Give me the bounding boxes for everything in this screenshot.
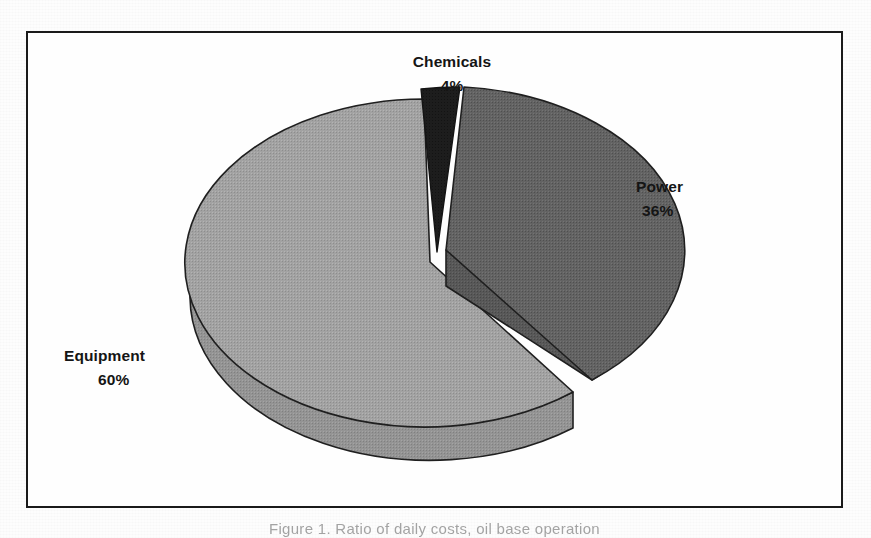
slice-label-chemicals: Chemicals 4% [352, 50, 552, 98]
slice-label-chemicals-name: Chemicals [352, 50, 552, 74]
slice-label-power-value: 36% [636, 199, 816, 223]
slice-label-equipment-value: 60% [22, 368, 222, 392]
slice-label-chemicals-value: 4% [352, 74, 552, 98]
slice-label-equipment-name: Equipment [22, 344, 222, 368]
slice-label-equipment: Equipment 60% [22, 344, 222, 392]
slice-label-power-name: Power [636, 175, 816, 199]
slice-label-power: Power 36% [636, 175, 816, 223]
pie-chart: Chemicals 4% Power 36% Equipment 60% [0, 0, 871, 538]
